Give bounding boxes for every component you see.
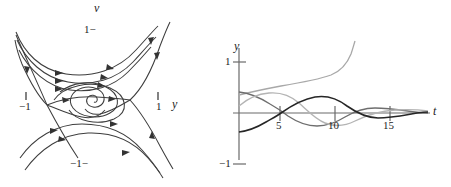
phase-tick-left: −1 xyxy=(19,101,31,112)
figure-root: v 1− −1 1 y −1− xyxy=(0,0,451,187)
time-ytick-neg1: −1 xyxy=(219,158,231,169)
separatrix-left-descend xyxy=(16,35,78,158)
arrow-icon xyxy=(110,121,118,127)
time-ytick-1: 1 xyxy=(225,56,231,67)
time-xtick-5: 5 xyxy=(276,120,282,131)
phase-tick-right: 1 xyxy=(156,101,162,112)
phase-portrait-plot xyxy=(0,0,225,187)
arrow-icon xyxy=(62,97,70,103)
trajectory-lower-1 xyxy=(20,124,160,173)
phase-tickmarks xyxy=(26,92,158,100)
phase-axis-label-y: y xyxy=(172,98,177,110)
separatrix-right-ascend xyxy=(130,22,170,100)
phase-tick-bottom: −1− xyxy=(70,158,88,169)
time-series-plot xyxy=(225,0,451,187)
curve-divergent xyxy=(239,41,355,95)
time-xtick-15: 15 xyxy=(383,120,394,131)
time-series-panel: y 1 −1 5 10 15 t xyxy=(225,0,451,187)
trajectory-upper-2 xyxy=(17,37,156,83)
arrow-icon xyxy=(108,96,116,102)
phase-trajectories xyxy=(15,22,173,178)
phase-axis-label-v: v xyxy=(94,2,99,14)
arrow-icon xyxy=(55,70,63,76)
phase-portrait-panel: v 1− −1 1 y −1− xyxy=(0,0,225,187)
time-axis-label-y: y xyxy=(234,40,239,52)
trajectory-lower-2 xyxy=(25,133,163,178)
arrow-icon xyxy=(122,150,130,156)
phase-tick-top: 1− xyxy=(84,24,96,35)
time-xtick-10: 10 xyxy=(328,120,339,131)
axes xyxy=(233,48,430,164)
time-axis-label-t: t xyxy=(433,105,436,117)
arrow-icon xyxy=(55,78,63,84)
